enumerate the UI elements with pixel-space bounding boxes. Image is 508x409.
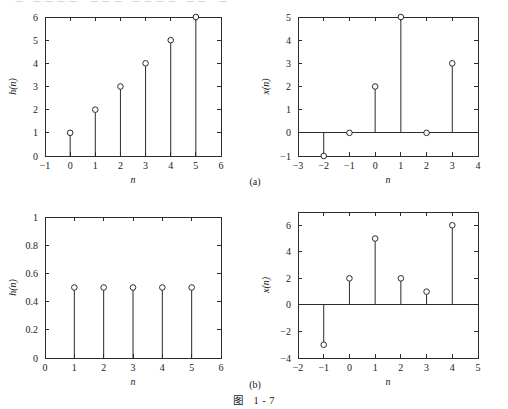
plot-bottom-left-yticklabel: 0.4 [26,296,39,307]
plot-top-right-marker [347,130,353,136]
plot-top-left-xticklabel: 1 [93,160,98,171]
plot-bottom-left-ylabel: h(n) [7,279,19,296]
plot-bottom-right-xticklabel: 3 [424,362,429,373]
plot-bottom-right-marker [449,222,455,228]
plot-bottom-right: −2−1012345−4−20246nx(n) [254,206,508,382]
plot-bottom-right-marker [424,289,430,295]
plot-bottom-left-yticklabel: 0.8 [26,240,39,251]
plot-bottom-left-yticklabel: 0.6 [26,268,39,279]
plot-top-right-yticklabel: 0 [286,127,291,138]
plot-bottom-right-yticklabel: −2 [280,326,291,337]
plot-top-left: −101234560123456nh(n) [0,4,254,180]
subfigure-label-b: (b) [235,379,275,390]
plot-bottom-right-marker [398,276,404,282]
plot-top-left-marker [118,84,124,90]
plot-bottom-right-frame [298,212,478,358]
plot-top-left-marker [143,61,149,67]
plot-top-right-yticklabel: 3 [286,58,291,69]
plot-bottom-right-svg: −2−1012345−4−20246nx(n) [254,206,508,382]
plot-top-left-xticklabel: 0 [68,160,73,171]
plot-top-right-ylabel: x(n) [260,78,272,96]
plot-top-left-xticklabel: 4 [168,160,173,171]
plot-top-right-xticklabel: 4 [476,160,481,171]
plot-top-left-marker [168,37,174,43]
plot-top-left-ylabel: h(n) [7,78,19,95]
plot-bottom-right-ylabel: x(n) [260,276,272,294]
plot-bottom-left-yticklabel: 0 [33,353,38,364]
plot-bottom-right-marker [321,342,327,348]
plot-top-left-yticklabel: 3 [33,81,38,92]
plot-bottom-right-xlabel: n [386,376,391,387]
plot-top-left-xticklabel: 5 [193,160,198,171]
plot-bottom-right-xticklabel: −1 [318,362,329,373]
plot-bottom-left-marker [101,285,107,291]
plot-bottom-right-xticklabel: −2 [293,362,304,373]
plot-top-right-xticklabel: 2 [424,160,429,171]
figure-caption: 图1 - 7 [0,392,508,407]
plot-bottom-left-marker [160,285,166,291]
plot-bottom-left-marker [72,285,78,291]
plot-top-left-yticklabel: 4 [33,58,38,69]
plot-top-left-marker [67,130,73,136]
plot-top-right-marker [449,61,455,67]
plot-bottom-left-xticklabel: 4 [160,362,165,373]
plot-top-right-xticklabel: 0 [373,160,378,171]
plot-bottom-left: 012345600.20.40.60.81nh(n) [0,206,254,382]
figure-caption-number: 1 - 7 [253,395,275,406]
plot-top-right-yticklabel: 5 [286,12,291,23]
plot-bottom-left-xticklabel: 1 [72,362,77,373]
plot-bottom-left-yticklabel: 1 [33,212,38,223]
plot-top-left-xticklabel: −1 [40,160,51,171]
plot-top-right-yticklabel: 1 [286,104,291,115]
plot-bottom-left-xticklabel: 6 [219,362,224,373]
plot-top-right-yticklabel: 4 [286,35,291,46]
plot-top-right-frame [298,17,478,156]
plot-bottom-right-yticklabel: 4 [286,246,291,257]
plot-top-left-xticklabel: 3 [143,160,148,171]
plot-top-right-xticklabel: 1 [398,160,403,171]
plot-bottom-left-xticklabel: 2 [101,362,106,373]
plot-top-right-xticklabel: −2 [318,160,329,171]
figure-caption-word: 图 [233,395,244,406]
plot-bottom-right-yticklabel: 0 [286,299,291,310]
plot-top-left-marker [92,107,98,113]
plot-bottom-right-yticklabel: 2 [286,273,291,284]
plot-top-left-yticklabel: 1 [33,127,38,138]
plot-top-left-xticklabel: 2 [118,160,123,171]
plot-top-right-xticklabel: −1 [344,160,355,171]
plot-bottom-left-yticklabel: 0.2 [26,324,39,335]
plot-bottom-right-xticklabel: 5 [476,362,481,373]
plot-top-right-xticklabel: 3 [450,160,455,171]
plot-top-right-marker [398,14,404,20]
plot-bottom-left-xticklabel: 0 [43,362,48,373]
plot-top-right-yticklabel: −1 [280,151,291,162]
plot-bottom-right-marker [347,276,353,282]
plot-bottom-right-yticklabel: 6 [286,220,291,231]
plot-top-left-marker [193,14,199,20]
plot-top-left-svg: −101234560123456nh(n) [0,4,254,180]
plot-top-right-marker [321,153,327,159]
plot-top-left-yticklabel: 2 [33,104,38,115]
plot-bottom-right-xticklabel: 1 [373,362,378,373]
plot-bottom-left-xlabel: n [131,376,136,387]
plot-top-left-yticklabel: 5 [33,35,38,46]
plot-top-right-xticklabel: −3 [293,160,304,171]
plot-top-right-marker [424,130,430,136]
plot-bottom-right-xticklabel: 0 [347,362,352,373]
subfigure-label-a: (a) [235,176,275,187]
plot-top-left-xticklabel: 6 [219,160,224,171]
plot-top-right-xlabel: n [386,174,391,185]
plot-bottom-right-yticklabel: −4 [280,353,291,364]
plot-bottom-right-marker [372,236,378,242]
plot-top-left-yticklabel: 0 [33,151,38,162]
plot-top-right-yticklabel: 2 [286,81,291,92]
plot-bottom-right-xticklabel: 2 [398,362,403,373]
plot-top-left-yticklabel: 6 [33,12,38,23]
plot-top-left-xlabel: n [131,174,136,185]
plot-bottom-left-marker [189,285,195,291]
plot-bottom-right-xticklabel: 4 [450,362,455,373]
plot-top-right-marker [372,84,378,90]
plot-top-right: −3−2−101234−1012345nx(n) [254,4,508,180]
plot-top-right-svg: −3−2−101234−1012345nx(n) [254,4,508,180]
figure-root: 、一、一 一 一 一、 一 一 一、一 一 一 一、一 一、 一 −101234… [0,0,508,409]
